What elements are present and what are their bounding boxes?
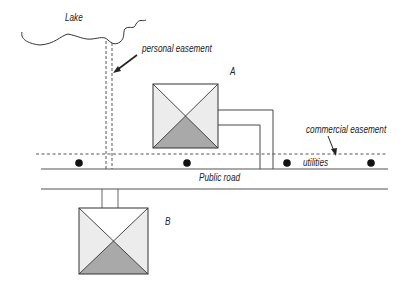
arrow-head-icon <box>331 148 337 156</box>
lake-shoreline <box>22 20 146 45</box>
house-a-connection-outer <box>218 110 273 169</box>
utility-pole <box>183 159 191 167</box>
lake-label: Lake <box>65 12 83 23</box>
utility-pole <box>367 159 375 167</box>
commercial-easement-label: commercial easement <box>306 124 386 135</box>
utility-pole <box>283 159 291 167</box>
personal-easement-label: personal easement <box>142 43 212 54</box>
house-a-label: A <box>230 66 235 77</box>
personal-easement-arrow <box>117 55 137 70</box>
utility-pole <box>75 159 83 167</box>
house-a-connection-inner <box>218 125 260 169</box>
public-road-label: Public road <box>199 172 240 183</box>
house-b <box>79 208 148 274</box>
house-b-label: B <box>165 216 170 227</box>
utilities-label: utilities <box>303 157 328 168</box>
house-a <box>153 84 218 148</box>
